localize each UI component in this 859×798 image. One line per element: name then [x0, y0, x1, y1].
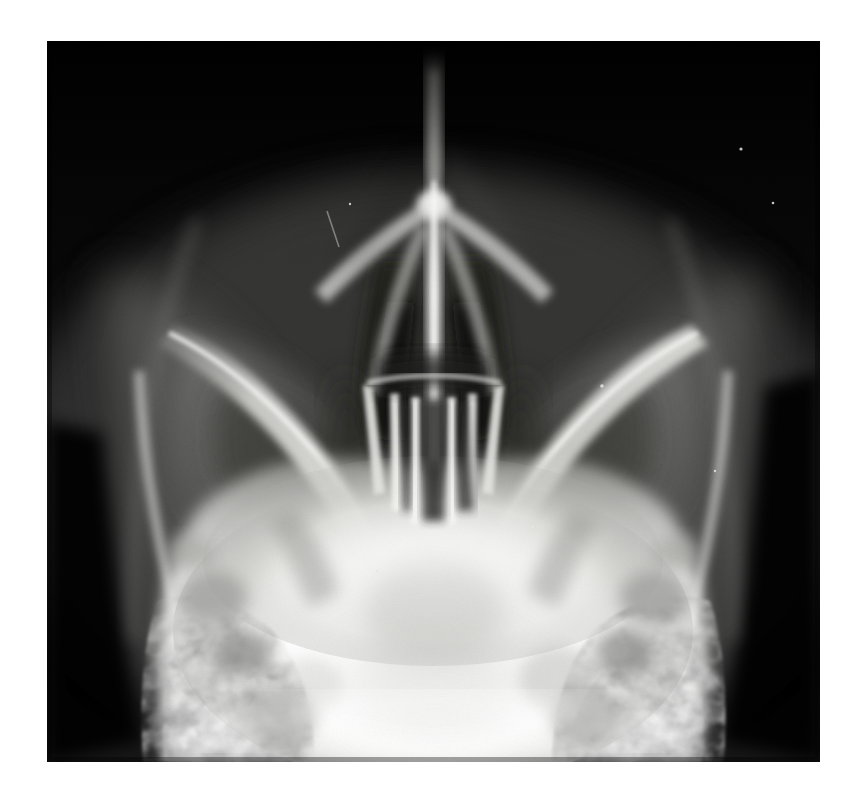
radiograph-canvas [47, 41, 820, 762]
film-grain-overlay-dark [47, 41, 820, 762]
radiograph-film: Nasal septum Nasal bones / anterior nasa… [47, 41, 820, 762]
radiograph-page: Nasal septum Nasal bones / anterior nasa… [0, 0, 859, 798]
